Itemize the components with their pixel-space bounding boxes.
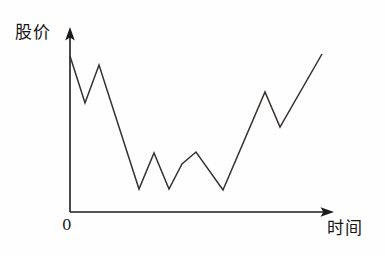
stock-price-line-series: [70, 54, 322, 190]
origin-label: 0: [62, 216, 72, 234]
x-axis-label: 时间: [327, 218, 362, 238]
axes-group: [65, 27, 334, 217]
stock-price-time-chart-figure: 股价 时间 0: [0, 0, 385, 256]
y-axis-label: 股价: [15, 22, 50, 42]
data-series-group: [70, 54, 322, 190]
